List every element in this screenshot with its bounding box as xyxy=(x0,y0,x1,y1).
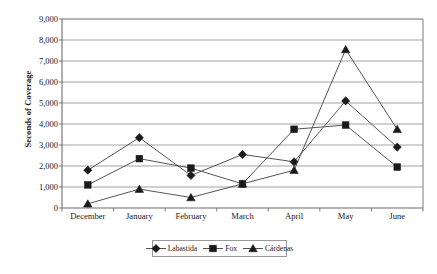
chart-plot-area xyxy=(0,0,437,274)
gridlines xyxy=(62,19,423,187)
y-tick-label: 7,000 xyxy=(18,57,58,66)
series-labastida xyxy=(84,97,402,180)
y-tick-label: 3,000 xyxy=(18,141,58,150)
legend-item-crdenas[interactable]: Cárdenas xyxy=(240,243,296,254)
legend-item-fox[interactable]: Fox xyxy=(200,243,240,254)
y-tick-label: 6,000 xyxy=(18,78,58,87)
x-tick-label-june: June xyxy=(357,211,437,221)
y-axis-tick-labels: 01,0002,0003,0004,0005,0006,0007,0008,00… xyxy=(14,0,58,190)
triangle-marker-icon xyxy=(243,243,263,254)
chart-container: Seconds of Coverage 01,0002,0003,0004,00… xyxy=(0,0,437,274)
series-crdenas xyxy=(84,45,402,207)
chart-legend: LabastidaFoxCárdenas xyxy=(152,240,287,257)
diamond-marker-icon xyxy=(146,243,166,254)
legend-item-labastida[interactable]: Labastida xyxy=(143,243,201,254)
y-tick-label: 5,000 xyxy=(18,99,58,108)
legend-label: Cárdenas xyxy=(265,245,293,253)
y-tick-label: 4,000 xyxy=(18,120,58,129)
y-tick-label: 8,000 xyxy=(18,36,58,45)
legend-label: Fox xyxy=(225,245,237,253)
y-tick-label: 1,000 xyxy=(18,183,58,192)
y-tick-label: 2,000 xyxy=(18,162,58,171)
y-tick-label: 9,000 xyxy=(18,15,58,24)
square-marker-icon xyxy=(203,243,223,254)
legend-label: Labastida xyxy=(168,245,198,253)
